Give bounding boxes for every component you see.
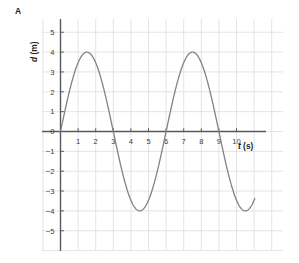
x-tick-label: 5 bbox=[146, 137, 150, 146]
y-tick-label: −1 bbox=[46, 147, 55, 156]
y-tick-label: −4 bbox=[46, 207, 55, 216]
y-tick-label: 2 bbox=[50, 88, 54, 97]
y-tick-label: −5 bbox=[46, 227, 55, 236]
x-axis-title: t (s) bbox=[238, 141, 254, 151]
y-tick-label: 1 bbox=[50, 107, 54, 116]
x-tick-label: 1 bbox=[76, 137, 80, 146]
x-tick-label: 2 bbox=[94, 137, 98, 146]
y-tick-label: −3 bbox=[46, 187, 55, 196]
y-tick-label: 0 bbox=[50, 127, 54, 136]
y-tick-label: 4 bbox=[50, 48, 54, 57]
displacement-time-graph: 12345678910 −5−4−3−2−1012345 t (s) d (m) bbox=[0, 0, 299, 263]
y-tick-label: 5 bbox=[50, 28, 54, 37]
x-tick-label: 7 bbox=[182, 137, 186, 146]
y-tick-label: 3 bbox=[50, 68, 54, 77]
x-tick-label: 4 bbox=[129, 137, 133, 146]
x-tick-label: 8 bbox=[199, 137, 203, 146]
y-tick-label: −2 bbox=[46, 167, 55, 176]
y-axis-title: d (m) bbox=[29, 41, 39, 62]
figure-panel: A 12345678910 −5−4−3−2−1012345 t (s) d (… bbox=[0, 0, 299, 263]
